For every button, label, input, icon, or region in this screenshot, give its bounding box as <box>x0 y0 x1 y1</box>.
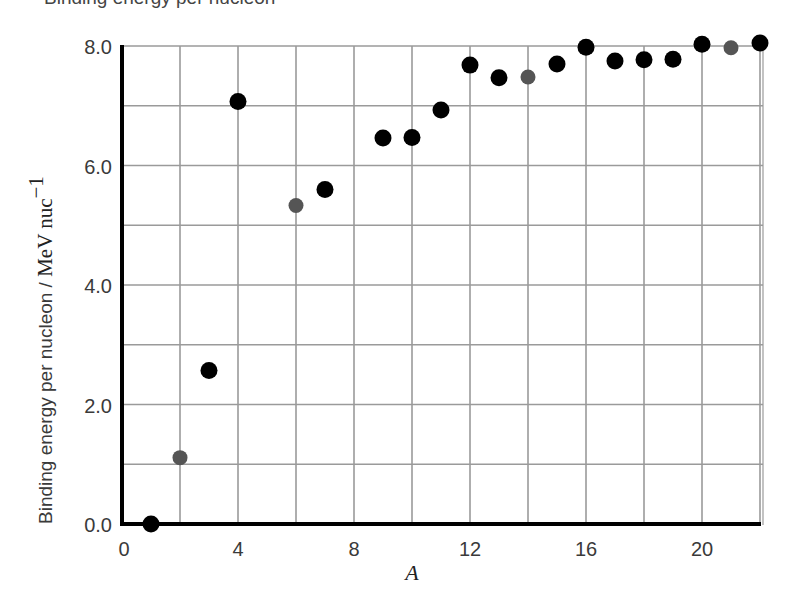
data-points <box>143 35 769 533</box>
data-point <box>404 129 421 146</box>
data-point <box>724 40 739 55</box>
data-point <box>317 181 334 198</box>
y-axis-label: Binding energy per nucleon / MeV nuc−1 <box>24 176 57 524</box>
data-point <box>578 39 595 56</box>
y-tick-label: 0.0 <box>84 514 112 536</box>
data-point <box>462 57 479 74</box>
data-point <box>289 198 304 213</box>
data-point <box>173 450 188 465</box>
data-point <box>375 130 392 147</box>
x-tick-label: 16 <box>575 538 597 560</box>
x-tick-label: 20 <box>691 538 713 560</box>
data-point <box>636 51 653 68</box>
y-axis-label-exponent: −1 <box>24 176 48 198</box>
x-axis-label: A <box>403 560 419 585</box>
data-point <box>201 362 218 379</box>
y-tick-label: 4.0 <box>84 275 112 297</box>
data-point <box>607 52 624 69</box>
x-tick-label: 12 <box>459 538 481 560</box>
data-point <box>549 55 566 72</box>
y-tick-labels: 0.02.04.06.08.0 <box>84 36 112 536</box>
y-tick-label: 8.0 <box>84 36 112 58</box>
data-point <box>694 36 711 53</box>
data-point <box>230 93 247 110</box>
data-point <box>752 35 769 52</box>
x-tick-labels: 048121620 <box>118 538 713 560</box>
x-tick-label: 4 <box>232 538 243 560</box>
data-point <box>665 51 682 68</box>
x-tick-label: 8 <box>348 538 359 560</box>
y-tick-label: 6.0 <box>84 156 112 178</box>
data-point <box>491 69 508 86</box>
binding-energy-chart: 048121620 0.02.04.06.08.0 A Binding ener… <box>0 0 798 606</box>
data-point <box>143 516 160 533</box>
data-point <box>433 101 450 118</box>
y-axis-label-unit: MeV nuc <box>33 198 57 276</box>
data-point <box>521 70 536 85</box>
y-axis-label-main: Binding energy per nucleon / <box>35 277 56 524</box>
y-tick-label: 2.0 <box>84 395 112 417</box>
x-tick-label: 0 <box>118 538 129 560</box>
